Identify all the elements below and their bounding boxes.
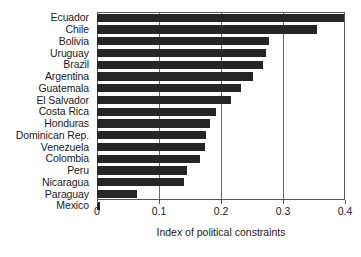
bar-row [97, 177, 345, 189]
bar [97, 14, 344, 22]
political-constraints-bar-chart: EcuadorChileBoliviaUruguayBrazilArgentin… [0, 0, 361, 257]
x-axis-tick [283, 200, 284, 204]
bar-row [97, 188, 345, 200]
bar [97, 190, 137, 198]
category-axis-labels: EcuadorChileBoliviaUruguayBrazilArgentin… [0, 12, 93, 200]
bar-row [97, 94, 345, 106]
bar-row [97, 83, 345, 95]
bar-row [97, 24, 345, 36]
bar-row [97, 47, 345, 59]
category-label: Costa Rica [39, 106, 89, 117]
bar [97, 72, 253, 80]
x-axis-tick [159, 200, 160, 204]
category-label: Guatemala [39, 83, 89, 94]
bar-row [97, 106, 345, 118]
category-label: Dominican Rep. [16, 130, 89, 141]
bar-row [97, 165, 345, 177]
x-axis-tick-label: 0.1 [152, 205, 167, 217]
category-label-row: Brazil [0, 59, 93, 71]
category-label: Honduras [44, 118, 89, 129]
category-label-row: El Salvador [0, 94, 93, 106]
x-axis-tick-label: 0.3 [276, 205, 291, 217]
category-label: Brazil [63, 59, 89, 70]
bars-layer [97, 12, 345, 200]
category-label-row: Chile [0, 24, 93, 36]
x-axis-tick [345, 200, 346, 204]
bar [97, 155, 200, 163]
category-label-row: Guatemala [0, 83, 93, 95]
bar [97, 108, 216, 116]
bar-row [97, 36, 345, 48]
category-label-row: Dominican Rep. [0, 130, 93, 142]
bar-row [97, 153, 345, 165]
category-label-row: Venezuela [0, 141, 93, 153]
bar [97, 37, 269, 45]
bar-row [97, 118, 345, 130]
bar-row [97, 59, 345, 71]
bar [97, 119, 210, 127]
x-axis-tick [221, 200, 222, 204]
x-axis-tick-label: 0 [94, 205, 100, 217]
category-label-row: Argentina [0, 71, 93, 83]
category-label: Mexico [56, 200, 89, 211]
x-axis-title: Index of political constraints [97, 226, 345, 239]
bar [97, 178, 184, 186]
bar [97, 25, 317, 33]
category-label: Nicaragua [42, 177, 89, 188]
bar [97, 61, 263, 69]
category-label-row: Peru [0, 165, 93, 177]
category-label-row: Ecuador [0, 12, 93, 24]
bar-row [97, 71, 345, 83]
category-label: Paraguay [45, 189, 89, 200]
bar [97, 131, 206, 139]
x-axis-tick [97, 200, 98, 204]
category-label: Colombia [45, 153, 89, 164]
bar-row [97, 130, 345, 142]
category-label: Venezuela [41, 142, 89, 153]
x-axis-tick-label: 0.4 [338, 205, 353, 217]
bar [97, 84, 241, 92]
category-label: Peru [67, 165, 89, 176]
bar [97, 166, 187, 174]
bar [97, 49, 266, 57]
category-label: Bolivia [59, 36, 89, 47]
category-label-row: Honduras [0, 118, 93, 130]
category-label-row: Nicaragua [0, 177, 93, 189]
bar [97, 143, 205, 151]
bar-row [97, 141, 345, 153]
category-label: Chile [66, 24, 89, 35]
category-label: El Salvador [36, 95, 89, 106]
category-label-row: Costa Rica [0, 106, 93, 118]
category-label-row: Bolivia [0, 36, 93, 48]
category-label-row: Colombia [0, 153, 93, 165]
bar-row [97, 12, 345, 24]
category-label-row: Paraguay [0, 188, 93, 200]
category-label-row: Mexico [0, 200, 93, 212]
category-label: Argentina [45, 71, 89, 82]
category-label: Ecuador [51, 12, 89, 23]
x-axis-tick-label: 0.2 [214, 205, 229, 217]
bar [97, 96, 231, 104]
category-label-row: Uruguay [0, 47, 93, 59]
category-label: Uruguay [50, 48, 89, 59]
